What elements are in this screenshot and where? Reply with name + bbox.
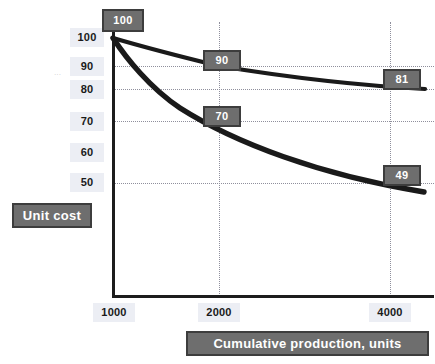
series-line-70-percent: [113, 38, 424, 192]
value-callout-100: 100: [102, 9, 144, 32]
y-tick-label-70: 70: [70, 112, 104, 131]
y-tick-label-50: 50: [70, 173, 104, 192]
y-tick-label-80: 80: [70, 80, 104, 99]
x-tick-label-4000: 4000: [369, 303, 411, 322]
value-callout-49: 49: [383, 165, 421, 186]
value-callout-70: 70: [203, 106, 241, 127]
value-callout-90: 90: [203, 50, 241, 71]
y-axis-title: Unit cost: [12, 203, 92, 228]
y-tick-label-100: 100: [70, 28, 104, 47]
x-tick-label-2000: 2000: [198, 303, 240, 322]
scan-artifact: ···: [54, 72, 61, 90]
y-tick-label-60: 60: [70, 143, 104, 162]
y-tick-label-90: 90: [70, 57, 104, 76]
series-line-90-percent: [113, 38, 425, 89]
x-tick-label-1000: 1000: [93, 303, 135, 322]
x-axis-title: Cumulative production, units: [186, 331, 429, 356]
learning-curve-chart: 100 90 80 70 60 50 1000 2000 4000 100 90…: [0, 0, 435, 364]
value-callout-81: 81: [383, 69, 421, 90]
